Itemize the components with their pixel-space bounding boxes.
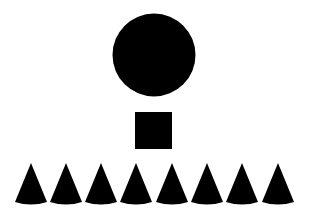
shapes-diagram: [0, 0, 313, 224]
cone-shape: [226, 163, 258, 205]
cone-shape: [120, 163, 152, 205]
circle-shape: [113, 14, 196, 97]
cone-shape: [262, 163, 294, 205]
cone-shape: [85, 163, 117, 205]
cone-shape: [191, 163, 223, 205]
cone-shape: [156, 163, 188, 205]
cone-row: [15, 163, 294, 205]
square-shape: [135, 112, 172, 149]
cone-shape: [15, 163, 47, 205]
cone-shape: [50, 163, 82, 205]
